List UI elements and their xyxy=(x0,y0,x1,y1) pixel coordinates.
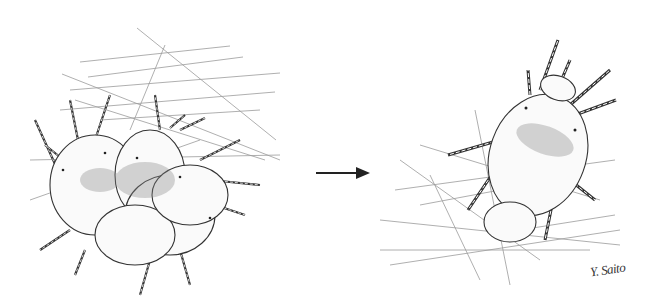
transition-arrow xyxy=(314,163,372,183)
single-mite-drawing xyxy=(380,0,671,308)
arrow-right-icon xyxy=(314,163,372,183)
mite-cluster-drawing xyxy=(0,0,300,308)
single-mite-illustration xyxy=(380,0,671,308)
mite-cluster-illustration xyxy=(0,0,300,308)
